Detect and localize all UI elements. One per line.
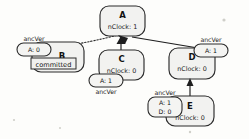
diagram-svg: B ancVer A: 0 committed A nClock: 1 — [0, 0, 249, 139]
ancver-caption-D: ancVer — [200, 36, 222, 43]
ancver-caption-E: ancVer — [154, 89, 176, 96]
ancver-caption-C: ancVer — [95, 88, 117, 95]
state-label-B: committed — [31, 58, 76, 69]
ancver-box-E[interactable]: ancVer A: 1 D: 0 — [148, 89, 182, 117]
ancver-box-C[interactable]: A: 1 ancVer — [89, 74, 123, 95]
diagram-canvas: B ancVer A: 0 committed A nClock: 1 — [0, 0, 249, 139]
ancver-entry-E-1: D: 0 — [159, 108, 172, 115]
node-A-detail: nClock: 1 — [108, 23, 138, 31]
ancver-entry-D-0: A: 1 — [205, 47, 217, 54]
node-D-detail: nClock: 0 — [177, 65, 207, 73]
node-C-label: C — [118, 54, 124, 64]
ancver-entry-E-0: A: 1 — [159, 99, 171, 106]
ancver-box-B[interactable]: ancVer A: 0 — [17, 35, 51, 56]
ancver-caption-B: ancVer — [23, 35, 45, 42]
node-A[interactable]: A nClock: 1 — [100, 6, 145, 36]
ancver-box-D[interactable]: ancVer A: 1 — [194, 36, 228, 57]
edge-D-to-A — [132, 37, 198, 48]
ancver-entry-B-0: A: 0 — [28, 46, 40, 53]
ancver-entry-C-0: A: 1 — [100, 77, 112, 84]
node-A-label: A — [119, 10, 126, 20]
state-label-B-text: committed — [36, 61, 72, 69]
node-E-label: E — [187, 101, 193, 111]
